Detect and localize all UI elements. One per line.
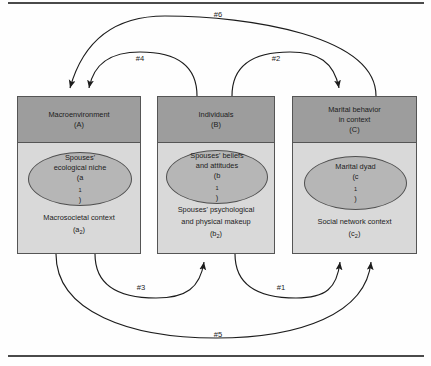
box-c-body-line1: Social network context <box>293 217 416 227</box>
oval-c-label: (c1) <box>335 172 375 204</box>
oval-b-label: (b1) <box>190 171 244 203</box>
box-b-header-line2: (B) <box>199 120 234 130</box>
figure-canvas: #6 #4 #2 #3 #1 #5 Macroenvironment (A) S… <box>0 0 431 366</box>
box-a-body-label: (a2) <box>18 225 140 237</box>
box-c-header-line1b: in context <box>328 115 381 125</box>
box-c-body-label: (c2) <box>293 229 416 241</box>
box-individuals-header: Individuals (B) <box>158 97 274 143</box>
oval-marital-dyad: Marital dyad (c1) <box>304 156 407 210</box>
box-individuals: Individuals (B) Spouses' beliefs and att… <box>157 96 275 254</box>
arrow-label-4: #4 <box>125 54 155 63</box>
oval-b-line2: and attitudes <box>190 161 244 171</box>
arrow-label-2: #2 <box>261 54 291 63</box>
box-marital-behavior-body: Marital dyad (c1) Social network context… <box>293 143 416 254</box>
oval-a-line2: ecological niche <box>54 163 107 173</box>
oval-spouses-ecological-niche: Spouses' ecological niche (a1) <box>28 152 132 206</box>
box-individuals-body: Spouses' beliefs and attitudes (b1) Spou… <box>158 143 274 254</box>
box-a-body-line1: Macrosocietal context <box>18 213 140 223</box>
arrow-label-6: #6 <box>203 10 233 19</box>
oval-c-line1: Marital dyad <box>335 162 375 172</box>
arrow-label-5: #5 <box>203 330 233 339</box>
box-a-header-line2: (A) <box>48 120 109 130</box>
box-b-header-line1: Individuals <box>199 110 234 120</box>
oval-b-line1: Spouses' beliefs <box>190 151 244 161</box>
arrow-label-1: #1 <box>266 283 296 292</box>
oval-spouses-beliefs-attitudes: Spouses' beliefs and attitudes (b1) <box>166 150 268 204</box>
box-b-body-line1b: and physical makeup <box>158 217 274 227</box>
arrow-label-3: #3 <box>126 283 156 292</box>
arrow-5-path <box>56 254 371 338</box>
box-a-header-line1: Macroenvironment <box>48 110 109 120</box>
box-c-header-line1: Marital behavior <box>328 105 381 115</box>
box-macroenvironment: Macroenvironment (A) Spouses' ecological… <box>17 96 141 254</box>
box-macroenvironment-header: Macroenvironment (A) <box>18 97 140 143</box>
box-macroenvironment-body: Spouses' ecological niche (a1) Macrosoci… <box>18 143 140 254</box>
box-marital-behavior: Marital behavior in context (C) Marital … <box>292 96 417 254</box>
oval-a-label: (a1) <box>54 173 107 205</box>
oval-a-line1: Spouses' <box>54 153 107 163</box>
box-b-body-label: (b2) <box>158 229 274 241</box>
box-c-header-line2: (C) <box>328 125 381 135</box>
box-b-body-line1: Spouses' psychological <box>158 205 274 215</box>
box-marital-behavior-header: Marital behavior in context (C) <box>293 97 416 143</box>
